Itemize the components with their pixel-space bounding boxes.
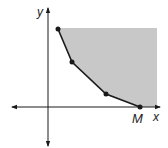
vertex-point xyxy=(56,27,61,32)
x-axis-label: x xyxy=(153,111,159,123)
point-m-label: M xyxy=(132,113,143,125)
y-axis-label: y xyxy=(37,6,43,18)
vertex-point xyxy=(104,92,109,97)
vertex-point-m xyxy=(138,105,143,110)
vertex-point xyxy=(70,60,75,65)
